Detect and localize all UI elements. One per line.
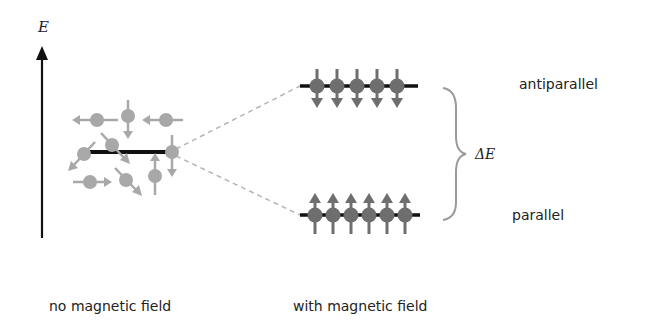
spin-left-icon: [72, 113, 118, 127]
no-field-caption: no magnetic field: [49, 298, 171, 314]
spin-diagonal-icon: [115, 168, 142, 196]
spin-left-icon: [142, 113, 183, 127]
spin-down-icon: [350, 69, 365, 108]
energy-diagram: [0, 0, 653, 336]
spin-diagonal-icon: [68, 142, 95, 171]
spin-up-icon: [326, 193, 341, 234]
delta-e-label: ΔE: [475, 146, 495, 162]
spin-up-icon: [380, 193, 395, 234]
split-connectors: [176, 86, 300, 215]
with-field-caption: with magnetic field: [293, 298, 427, 314]
antiparallel-level: [300, 69, 418, 108]
spin-diagonal-icon: [101, 133, 130, 164]
axis-arrow-icon: [36, 46, 48, 60]
spin-down-icon: [330, 69, 345, 108]
spin-down-icon: [165, 135, 179, 177]
spin-down-icon: [310, 69, 325, 108]
parallel-level: [300, 193, 420, 234]
random-spins: [68, 100, 183, 196]
spin-right-icon: [73, 175, 112, 189]
antiparallel-label: antiparallel: [519, 76, 598, 92]
energy-axis: [36, 46, 48, 238]
spin-down-icon: [121, 100, 135, 139]
delta-e-brace: [443, 88, 466, 220]
spin-down-icon: [390, 69, 405, 108]
spin-up-icon: [362, 193, 377, 234]
spin-up-icon: [398, 193, 413, 234]
parallel-label: parallel: [512, 207, 564, 223]
energy-axis-label: E: [38, 18, 49, 36]
spin-down-icon: [370, 69, 385, 108]
spin-up-icon: [344, 193, 359, 234]
spin-up-icon: [308, 193, 323, 234]
spin-up-icon: [148, 153, 162, 195]
